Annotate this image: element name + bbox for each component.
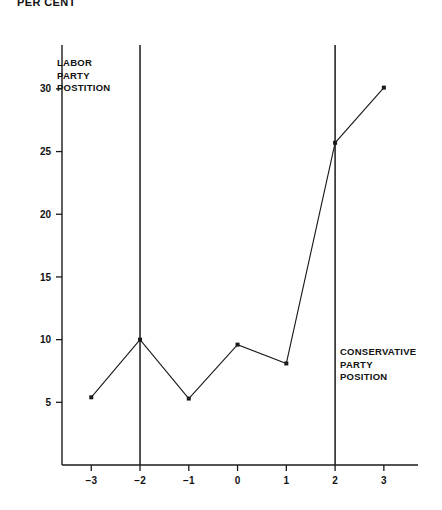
conservative-annotation-line-3: POSITION — [340, 371, 416, 384]
data-point--1 — [187, 397, 191, 401]
y-tick-label: 20 — [40, 209, 52, 220]
x-tick-label: 3 — [381, 475, 387, 486]
x-tick-label: 2 — [332, 475, 338, 486]
reference-lines — [140, 45, 335, 465]
labor-annotation-line-1: LABOR — [57, 57, 110, 70]
y-tick-label: 30 — [40, 83, 52, 94]
conservative-annotation-line-1: CONSERVATIVE — [340, 346, 416, 359]
chart-title: PER CENT — [17, 0, 76, 8]
data-point-3 — [382, 86, 386, 90]
y-tick-label: 5 — [45, 397, 51, 408]
conservative-party-position-annotation: CONSERVATIVE PARTY POSITION — [340, 346, 416, 384]
data-point-2 — [333, 141, 337, 145]
chart-figure: PER CENT 51015202530 −3−2−10123 LABOR PA… — [0, 0, 442, 510]
y-axis-ticks: 51015202530 — [40, 83, 62, 407]
x-tick-label: −2 — [134, 475, 146, 486]
labor-party-position-annotation: LABOR PARTY POSTITION — [57, 57, 110, 95]
y-tick-label: 25 — [40, 146, 52, 157]
data-point--2 — [138, 338, 142, 342]
conservative-annotation-line-2: PARTY — [340, 359, 416, 372]
labor-annotation-line-2: PARTY — [57, 70, 110, 83]
y-tick-label: 15 — [40, 272, 52, 283]
x-axis-ticks: −3−2−10123 — [86, 465, 388, 486]
y-tick-label: 10 — [40, 334, 52, 345]
x-tick-label: 1 — [284, 475, 290, 486]
x-tick-label: −3 — [86, 475, 98, 486]
x-tick-label: 0 — [235, 475, 241, 486]
data-point-0 — [236, 343, 240, 347]
x-tick-label: −1 — [183, 475, 195, 486]
data-point-1 — [284, 361, 288, 365]
labor-annotation-line-3: POSTITION — [57, 82, 110, 95]
data-point--3 — [89, 395, 93, 399]
